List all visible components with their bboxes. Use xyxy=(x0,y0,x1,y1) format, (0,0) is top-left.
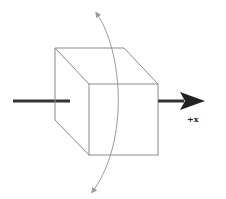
cube-front-face xyxy=(89,84,158,155)
cube-top-right-diagonal xyxy=(124,48,158,84)
rotation-arc-icon xyxy=(93,14,118,191)
cube-rotation-diagram: +x xyxy=(0,0,226,199)
cube-top-left-diagonal xyxy=(55,48,89,84)
cube xyxy=(55,48,158,155)
cube-bottom-left-diagonal xyxy=(55,120,89,155)
axis-label: +x xyxy=(187,114,199,124)
